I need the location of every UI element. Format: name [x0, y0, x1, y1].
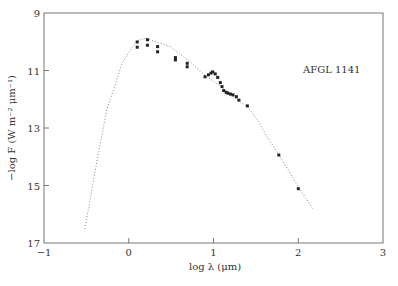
data-point [186, 62, 189, 65]
axis-ticks [44, 71, 298, 244]
data-point [219, 81, 222, 84]
data-point [226, 92, 229, 95]
data-point [136, 46, 139, 49]
plot-frame [44, 13, 383, 243]
source-annotation: AFGL 1141 [302, 64, 360, 75]
x-tick-label: 3 [380, 247, 386, 258]
data-point [221, 85, 224, 88]
data-point [186, 65, 189, 68]
data-point [214, 72, 217, 75]
data-points [136, 38, 300, 190]
data-point [156, 45, 159, 48]
data-point [174, 58, 177, 61]
data-point [235, 95, 238, 98]
tick-labels: −10123911131517 [27, 8, 386, 258]
data-point [237, 99, 240, 102]
y-tick-label: 11 [27, 66, 40, 77]
data-point [297, 187, 300, 190]
x-axis-label: log λ (μm) [189, 261, 241, 272]
y-tick-label: 15 [27, 181, 40, 192]
y-tick-label: 17 [27, 238, 40, 249]
model-curve [85, 38, 314, 229]
x-tick-label: 2 [295, 247, 301, 258]
data-point [246, 104, 249, 107]
data-point [146, 44, 149, 47]
data-point [216, 76, 219, 79]
data-point [146, 38, 149, 41]
y-tick-label: 9 [34, 8, 40, 19]
data-point [207, 73, 210, 76]
sed-chart: −10123911131517 AFGL 1141 log λ (μm) −lo… [0, 0, 398, 286]
x-tick-label: 0 [126, 247, 132, 258]
data-point [232, 93, 235, 96]
x-tick-label: 1 [210, 247, 216, 258]
data-point [136, 41, 139, 44]
data-point [156, 50, 159, 53]
data-point [277, 154, 280, 157]
y-axis-label: −log F (W m⁻² μm⁻¹) [6, 75, 17, 181]
data-point [204, 75, 207, 78]
y-tick-label: 13 [27, 123, 40, 134]
